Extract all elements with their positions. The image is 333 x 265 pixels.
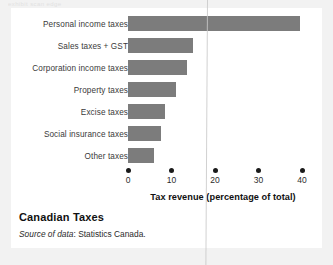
bar-category-label: Other taxes xyxy=(85,151,128,160)
figure-source-note: Source of data: Statistics Canada. xyxy=(19,229,146,239)
bar xyxy=(128,104,165,119)
x-axis-tick-label: 20 xyxy=(210,175,219,185)
x-axis-tick-label: 40 xyxy=(297,175,306,185)
figure-caption-title: Canadian Taxes xyxy=(19,211,104,223)
x-axis-title: Tax revenue (percentage of total) xyxy=(128,192,318,202)
bar-row: Property taxes xyxy=(11,82,322,97)
bar-row: Personal income taxes xyxy=(11,16,322,31)
figure-panel: Personal income taxesSales taxes + GSTCo… xyxy=(11,8,322,248)
bar xyxy=(128,38,193,53)
bar-row: Other taxes xyxy=(11,148,322,163)
bar-row: Sales taxes + GST xyxy=(11,38,322,53)
bar-category-label: Corporation income taxes xyxy=(32,63,128,72)
bar xyxy=(128,60,187,75)
bar-chart: Personal income taxesSales taxes + GSTCo… xyxy=(11,8,322,188)
x-axis-tick-label: 0 xyxy=(126,175,131,185)
scanned-page: exhibit scan edge Personal income taxesS… xyxy=(0,0,333,265)
bar-category-label: Excise taxes xyxy=(81,107,128,116)
bar-row: Excise taxes xyxy=(11,104,322,119)
source-label: Source of data xyxy=(19,229,73,239)
x-axis-tick-label: 10 xyxy=(167,175,176,185)
bar-category-label: Property taxes xyxy=(74,85,128,94)
x-axis: Tax revenue (percentage of total) 010203… xyxy=(11,168,322,214)
x-axis-tick-dot xyxy=(213,168,218,173)
bar xyxy=(128,148,154,163)
bar-category-label: Personal income taxes xyxy=(43,19,128,28)
bar-row: Social insurance taxes xyxy=(11,126,322,141)
bar xyxy=(128,16,300,31)
x-axis-tick-label: 30 xyxy=(254,175,263,185)
x-axis-tick-dot xyxy=(126,168,131,173)
bar xyxy=(128,126,161,141)
bar xyxy=(128,82,176,97)
x-axis-tick-dot xyxy=(169,168,174,173)
bar-category-label: Sales taxes + GST xyxy=(58,41,128,50)
bar-row: Corporation income taxes xyxy=(11,60,322,75)
x-axis-tick-dot xyxy=(300,168,305,173)
x-axis-tick-dot xyxy=(256,168,261,173)
bar-category-label: Social insurance taxes xyxy=(44,129,128,138)
source-value: : Statistics Canada. xyxy=(73,229,145,239)
